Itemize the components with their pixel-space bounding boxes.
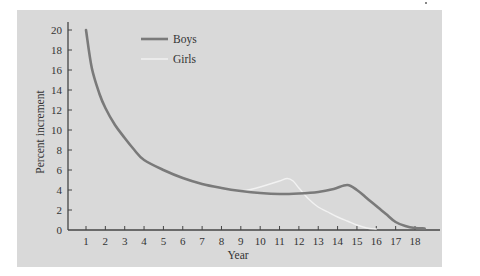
x-tick-label: 12: [293, 235, 304, 247]
x-tick-label: 18: [410, 235, 422, 247]
x-tick-label: 17: [390, 235, 402, 247]
x-axis-title: Year: [227, 249, 248, 261]
y-tick-label: 16: [51, 64, 63, 76]
y-tick-label: 8: [57, 144, 63, 156]
x-tick-label: 16: [371, 235, 383, 247]
y-tick-label: 18: [51, 44, 63, 56]
x-tick-label: 2: [103, 235, 109, 247]
chart-panel-background: [17, 10, 442, 267]
y-axis-title: Percent increment: [34, 90, 46, 174]
growth-increment-chart: 02468101214161820 1234567891011121314151…: [0, 0, 480, 276]
x-tick-label: 6: [180, 235, 186, 247]
x-tick-label: 5: [161, 235, 167, 247]
x-tick-label: 4: [141, 235, 147, 247]
y-tick-label: 12: [51, 104, 62, 116]
y-tick-label: 20: [51, 24, 63, 36]
legend-label-boys: Boys: [173, 33, 197, 46]
x-tick-label: 10: [255, 235, 267, 247]
x-tick-label: 9: [238, 235, 244, 247]
x-tick-label: 7: [199, 235, 205, 247]
x-tick-label: 14: [332, 235, 344, 247]
x-tick-label: 3: [122, 235, 128, 247]
x-tick-label: 8: [219, 235, 225, 247]
x-tick-label: 11: [274, 235, 285, 247]
x-tick-label: 15: [351, 235, 363, 247]
y-tick-label: 10: [51, 124, 63, 136]
x-tick-label: 13: [313, 235, 325, 247]
y-tick-label: 6: [57, 164, 63, 176]
x-tick-label: 1: [83, 235, 89, 247]
stray-dot-mark: [425, 2, 427, 4]
y-tick-label: 14: [51, 84, 63, 96]
y-tick-label: 0: [57, 224, 63, 236]
y-tick-label: 4: [57, 184, 63, 196]
legend-label-girls: Girls: [173, 53, 197, 65]
y-tick-label: 2: [57, 204, 63, 216]
